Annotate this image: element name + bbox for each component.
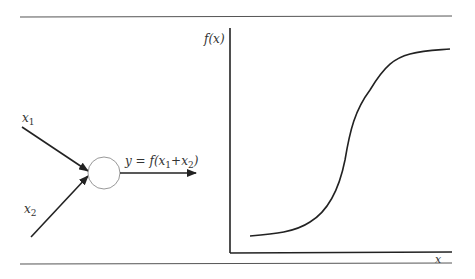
neuron-diagram: x1 x2 y = f(x1+x2) f(x) x — [0, 0, 475, 279]
top-rule — [20, 16, 452, 17]
input-arrow-x1 — [22, 127, 88, 171]
x-axis-label: x — [435, 253, 442, 266]
input-label-x1: x1 — [22, 111, 35, 127]
output-label: y = f(x1+x2) — [124, 154, 199, 170]
sigmoid-curve — [250, 49, 450, 236]
x-axis — [230, 252, 452, 253]
neuron: x1 x2 y = f(x1+x2) — [22, 111, 199, 237]
input-label-x2: x2 — [24, 202, 37, 218]
y-axis-label: f(x) — [203, 32, 225, 46]
bottom-rule — [20, 263, 452, 264]
neuron-node — [88, 157, 120, 189]
input-arrow-x2 — [31, 176, 88, 237]
activation-plot: f(x) x — [203, 28, 452, 266]
